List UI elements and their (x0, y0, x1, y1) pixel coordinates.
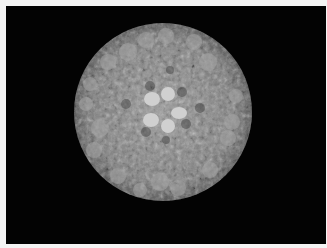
capsid-sphere (70, 20, 260, 205)
virus-capsid-image (0, 0, 327, 248)
